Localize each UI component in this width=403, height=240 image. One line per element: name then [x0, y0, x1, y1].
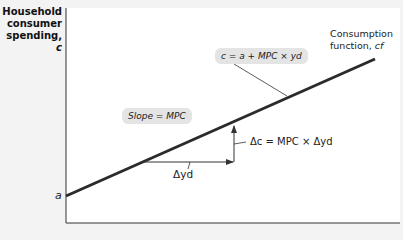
delta-yd-text: Δyd: [173, 168, 193, 180]
curve-label-line2: function, cf: [330, 40, 393, 52]
curve-label-line1: Consumption: [330, 28, 393, 40]
curve-label: Consumption function, cf: [330, 28, 393, 52]
consumption-function-line: [66, 59, 375, 196]
equation-leader: [234, 64, 287, 96]
delta-yd-label: Δyd: [173, 168, 193, 180]
delta-c-leader: [234, 142, 246, 144]
curve-label-var: cf: [375, 40, 384, 51]
curve-label-line2-text: function,: [330, 40, 375, 51]
intercept-label: a: [55, 189, 62, 202]
slope-label: Slope = MPC: [122, 108, 192, 124]
delta-c-label: Δc = MPC × Δyd: [250, 136, 333, 147]
equation-label: c = a + MPC × yd: [215, 48, 308, 64]
